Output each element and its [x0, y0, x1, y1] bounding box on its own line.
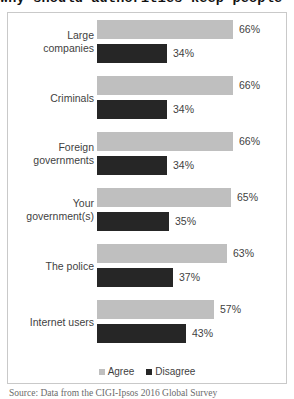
- legend-label-disagree: Disagree: [155, 366, 195, 377]
- bar-disagree[interactable]: [97, 268, 173, 287]
- bar-disagree[interactable]: [97, 100, 167, 119]
- chart-legend: Agree Disagree: [8, 366, 286, 377]
- bar-value-disagree: 34%: [173, 159, 194, 171]
- category-label-line2: government(s): [8, 210, 94, 223]
- bar-row-disagree: 37%: [97, 267, 200, 287]
- bar-agree[interactable]: [97, 132, 233, 151]
- bar-value-agree: 66%: [239, 135, 260, 147]
- bar-row-disagree: 34%: [97, 99, 194, 119]
- bar-value-agree: 66%: [239, 23, 260, 35]
- bar-value-agree: 65%: [237, 191, 258, 203]
- bar-disagree[interactable]: [97, 44, 167, 63]
- bar-value-disagree: 37%: [179, 271, 200, 283]
- bar-agree[interactable]: [97, 188, 231, 207]
- category-label-line1: Foreign: [8, 141, 94, 154]
- category-label-line1: Large: [8, 29, 94, 42]
- bar-value-agree: 57%: [220, 303, 241, 315]
- bar-row-disagree: 35%: [97, 211, 196, 231]
- legend-item-agree[interactable]: Agree: [99, 366, 135, 377]
- chart-plot-area: Large companies 66% 34% Criminals 66% 34…: [7, 12, 287, 384]
- bar-agree[interactable]: [97, 76, 233, 95]
- legend-swatch-agree-icon: [99, 369, 105, 375]
- bar-group-internet-users: Internet users 57% 43%: [8, 295, 286, 351]
- bar-row-agree: 65%: [97, 187, 258, 207]
- bar-group-criminals: Criminals 66% 34%: [8, 71, 286, 127]
- bar-disagree[interactable]: [97, 156, 167, 175]
- bar-row-agree: 57%: [97, 299, 241, 319]
- bar-row-disagree: 34%: [97, 43, 194, 63]
- bar-value-disagree: 35%: [175, 215, 196, 227]
- bar-row-disagree: 43%: [97, 323, 213, 343]
- bar-group-foreign-governments: Foreign governments 66% 34%: [8, 127, 286, 183]
- category-label-line1: Your: [8, 197, 94, 210]
- bar-value-agree: 66%: [239, 79, 260, 91]
- bar-group-your-governments: Your government(s) 65% 35%: [8, 183, 286, 239]
- category-label-line2: governments: [8, 154, 94, 167]
- category-label: Your government(s): [8, 197, 94, 222]
- legend-swatch-disagree-icon: [146, 369, 152, 375]
- bar-row-disagree: 34%: [97, 155, 194, 175]
- bar-agree[interactable]: [97, 300, 214, 319]
- bar-value-disagree: 34%: [173, 103, 194, 115]
- bar-agree[interactable]: [97, 244, 227, 263]
- bar-row-agree: 66%: [97, 19, 260, 39]
- bar-group-the-police: The police 63% 37%: [8, 239, 286, 295]
- category-label-line1: The police: [8, 260, 94, 273]
- bar-value-disagree: 34%: [173, 47, 194, 59]
- bar-value-disagree: 43%: [192, 327, 213, 339]
- bar-group-large-companies: Large companies 66% 34%: [8, 15, 286, 71]
- source-note: Source: Data from the CIGI-Ipsos 2016 Gl…: [9, 388, 294, 398]
- category-label: Large companies: [8, 29, 94, 54]
- bar-row-agree: 63%: [97, 243, 254, 263]
- category-label: Foreign governments: [8, 141, 94, 166]
- bar-value-agree: 63%: [233, 247, 254, 259]
- bar-agree[interactable]: [97, 20, 233, 39]
- bar-row-agree: 66%: [97, 131, 260, 151]
- bar-row-agree: 66%: [97, 75, 260, 95]
- legend-item-disagree[interactable]: Disagree: [146, 366, 195, 377]
- category-label: The police: [8, 260, 94, 273]
- legend-label-agree: Agree: [108, 366, 135, 377]
- category-label-line1: Criminals: [8, 92, 94, 105]
- bar-disagree[interactable]: [97, 324, 186, 343]
- category-label: Internet users: [8, 316, 94, 329]
- bar-disagree[interactable]: [97, 212, 169, 231]
- category-label-line1: Internet users: [8, 316, 94, 329]
- category-label-line2: companies: [8, 42, 94, 55]
- category-label: Criminals: [8, 92, 94, 105]
- chart-title: Why should authorities keep people: [0, 0, 294, 5]
